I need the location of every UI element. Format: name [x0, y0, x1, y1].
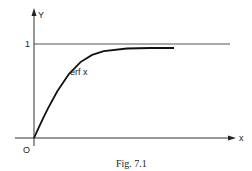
y-tick-1: 1	[25, 39, 30, 49]
y-axis-arrow-icon	[32, 8, 37, 16]
erf-chart: Y 1 O x erf x Fig. 7.1	[0, 0, 252, 171]
y-axis-label: Y	[38, 10, 44, 20]
origin-label: O	[23, 145, 30, 155]
x-axis-arrow-icon	[228, 136, 236, 141]
erf-curve	[34, 48, 174, 138]
figure-caption: Fig. 7.1	[116, 158, 147, 169]
x-axis-label: x	[239, 133, 244, 143]
curve-annotation: erf x	[70, 67, 88, 77]
